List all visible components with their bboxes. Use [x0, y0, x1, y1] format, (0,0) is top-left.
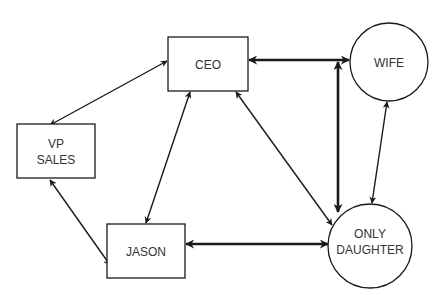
node-jason: JASON: [107, 224, 185, 278]
edge-wife-only-daughter: [372, 102, 387, 203]
node-vp-sales: VP SALES: [17, 124, 95, 178]
node-ceo: CEO: [168, 37, 248, 91]
relationship-diagram: CEO WIFE VP SALES JASON ONLY DAUGHTER: [0, 0, 442, 295]
node-jason-label: JASON: [126, 245, 166, 259]
edge-ceo-vp-sales: [50, 61, 167, 125]
node-ceo-label: CEO: [195, 58, 221, 72]
node-wife-label: WIFE: [374, 56, 404, 70]
edge-vp-sales-jason: [50, 180, 110, 265]
node-only-daughter-label-line1: ONLY: [354, 227, 386, 241]
node-wife: WIFE: [350, 23, 428, 101]
node-only-daughter: ONLY DAUGHTER: [328, 204, 412, 288]
edge-ceo-only-daughter: [236, 92, 332, 225]
node-vp-sales-label-line1: VP: [48, 137, 64, 151]
edge-ceo-jason: [146, 92, 190, 223]
node-vp-sales-label-line2: SALES: [37, 153, 76, 167]
node-only-daughter-label-line2: DAUGHTER: [336, 243, 404, 257]
